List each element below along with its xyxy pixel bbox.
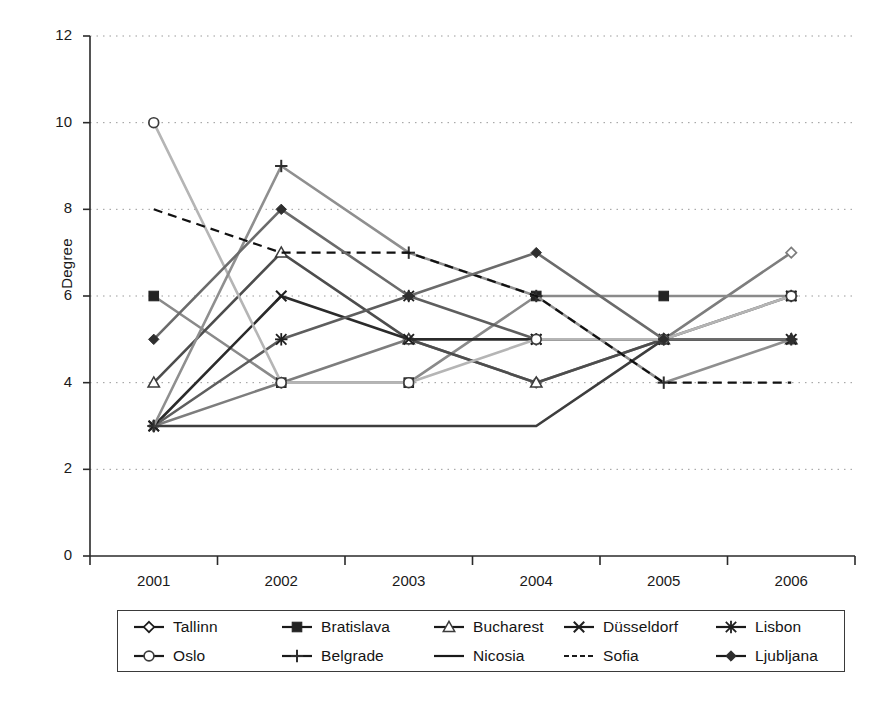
dashed-line-icon xyxy=(562,648,596,664)
legend-item[interactable]: Nicosia xyxy=(418,640,525,671)
x-tick-label: 2006 xyxy=(761,572,821,589)
series-marker xyxy=(404,378,414,388)
open-triangle-marker-icon xyxy=(432,619,466,635)
legend-item[interactable]: Sofia xyxy=(548,640,639,671)
plus-marker-icon xyxy=(280,648,314,664)
legend-item-label: Düsseldorf xyxy=(603,618,678,636)
legend-item[interactable]: Belgrade xyxy=(266,640,384,671)
legend-row: TallinnBratislavaBucharestDüsseldorfLisb… xyxy=(118,611,844,642)
filled-square-marker-icon xyxy=(280,619,314,635)
series-marker xyxy=(531,334,541,344)
series-marker xyxy=(659,291,669,301)
legend-row: OsloBelgradeNicosiaSofiaLjubljana xyxy=(118,640,844,671)
x-tick-label: 2005 xyxy=(634,572,694,589)
legend-item[interactable]: Bratislava xyxy=(266,611,390,642)
legend-item-label: Belgrade xyxy=(321,647,384,665)
solid-line-icon xyxy=(432,648,466,664)
series-line xyxy=(154,123,792,383)
series-marker xyxy=(275,333,287,345)
y-axis-title: Degree xyxy=(58,204,75,324)
x-tick-label: 2002 xyxy=(251,572,311,589)
x-tick-label: 2003 xyxy=(379,572,439,589)
legend-item[interactable]: Lisbon xyxy=(700,611,801,642)
series-layer xyxy=(148,118,798,432)
legend-item-label: Oslo xyxy=(173,647,205,665)
chart-series xyxy=(149,204,797,344)
legend-item[interactable]: Ljubljana xyxy=(700,640,818,671)
legend-item-label: Sofia xyxy=(603,647,639,665)
legend-item[interactable]: Bucharest xyxy=(418,611,544,642)
axis-lines xyxy=(83,36,855,565)
legend-item-label: Ljubljana xyxy=(755,647,818,665)
x-tick-label: 2004 xyxy=(506,572,566,589)
filled-diamond-marker-icon xyxy=(714,648,748,664)
gridlines xyxy=(90,36,855,469)
x-cross-marker-icon xyxy=(562,619,596,635)
legend-item[interactable]: Oslo xyxy=(118,640,205,671)
series-marker xyxy=(149,291,159,301)
y-tick-label: 4 xyxy=(42,373,72,390)
legend-item[interactable]: Düsseldorf xyxy=(548,611,678,642)
legend-item[interactable]: Tallinn xyxy=(118,611,218,642)
asterisk-marker-icon xyxy=(714,619,748,635)
y-tick-label: 10 xyxy=(42,113,72,130)
line-chart-plot xyxy=(0,0,882,701)
legend-item-label: Tallinn xyxy=(173,618,218,636)
legend-item-label: Bucharest xyxy=(473,618,544,636)
chart-figure: Degree 121086420 20012002200320042005200… xyxy=(0,0,882,701)
chart-series xyxy=(149,118,796,388)
chart-legend: TallinnBratislavaBucharestDüsseldorfLisb… xyxy=(117,610,845,672)
legend-item-label: Bratislava xyxy=(321,618,390,636)
legend-item-label: Nicosia xyxy=(473,647,525,665)
y-tick-label: 0 xyxy=(42,546,72,563)
legend-item-label: Lisbon xyxy=(755,618,801,636)
series-marker xyxy=(786,291,796,301)
y-tick-label: 2 xyxy=(42,459,72,476)
x-tick-label: 2001 xyxy=(124,572,184,589)
y-tick-label: 12 xyxy=(42,26,72,43)
y-tick-label: 8 xyxy=(42,199,72,216)
series-marker xyxy=(149,118,159,128)
y-tick-label: 6 xyxy=(42,286,72,303)
open-circle-marker-icon xyxy=(132,648,166,664)
series-marker xyxy=(276,378,286,388)
open-diamond-marker-icon xyxy=(132,619,166,635)
